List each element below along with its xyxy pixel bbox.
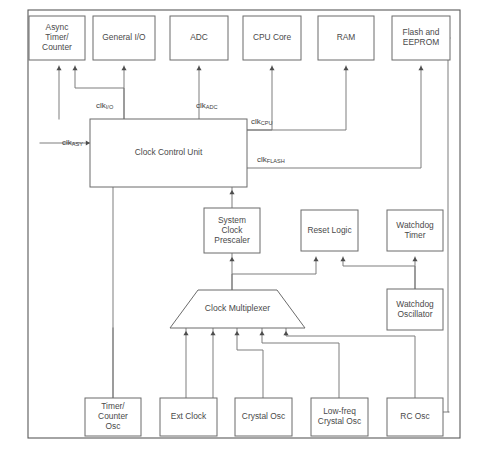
node-rc-osc: RC Osc [387, 398, 443, 436]
low-freq-crystal-osc-label: Low-freq [323, 406, 356, 416]
arrow-mux-5 [283, 331, 288, 335]
wire-mux-in-5 [286, 328, 415, 398]
node-reset-logic: Reset Logic [301, 210, 358, 251]
system-clock-prescaler-label: Clock [222, 225, 244, 235]
rc-osc-label: RC Osc [400, 411, 429, 421]
arrow-cpu-core [269, 66, 274, 70]
node-ext-clock: Ext Clock [160, 398, 217, 436]
node-watchdog-oscillator: WatchdogOscillator [387, 289, 443, 330]
wire-watchdog-osc-to-reset-logic [343, 257, 415, 289]
wire-ccu-to-flash [247, 66, 421, 168]
clock-label-clk-flash: clkFLASH [257, 155, 285, 165]
arrow-mux-1 [183, 331, 188, 335]
watchdog-timer-label: Timer [404, 230, 425, 240]
arrow-prescaler-in [229, 257, 234, 261]
timer-counter-osc-label: Osc [106, 421, 121, 431]
flash-and-eeprom-label: Flash and [403, 27, 440, 37]
node-cpu-core: CPU Core [243, 16, 301, 60]
clock-label-clk-io: clkI/O [96, 101, 114, 111]
node-system-clock-prescaler: SystemClockPrescaler [204, 208, 260, 253]
system-clock-prescaler-label: Prescaler [214, 235, 250, 245]
arrow-watchdog-timer [412, 257, 417, 261]
clock-label-clk-cpu: clkCPU [251, 117, 273, 127]
wire-ccu-to-async-timer-second [75, 66, 124, 119]
wire-mux-to-reset-logic [232, 257, 316, 290]
clock-label-clk-asy: clkASY [62, 138, 83, 148]
node-ram: RAM [318, 16, 374, 60]
arrow-mux-4 [259, 331, 264, 335]
node-crystal-osc: Crystal Osc [235, 398, 292, 436]
wire-mux-in-4 [262, 328, 339, 398]
arrow-reset-left [313, 257, 318, 261]
node-clock-control-unit: Clock Control Unit [90, 119, 247, 187]
node-watchdog-timer: WatchdogTimer [387, 210, 443, 251]
arrow-ram [343, 66, 348, 70]
system-clock-prescaler-label: System [218, 215, 246, 225]
arrow-reset-right [340, 257, 345, 261]
arrow-ccu-asy [86, 140, 90, 145]
node-async-timer-counter: AsyncTimer/Counter [29, 16, 85, 60]
clock-multiplexer-label: Clock Multiplexer [205, 303, 271, 313]
async-timer-counter-label: Timer/ [45, 32, 69, 42]
timer-counter-osc-label: Counter [98, 411, 128, 421]
arrow-mux-3 [234, 331, 239, 335]
node-adc: ADC [170, 16, 228, 60]
watchdog-oscillator-label: Watchdog [396, 299, 434, 309]
clock-label-clk-adc: clkADC [196, 101, 218, 111]
crystal-osc-label: Crystal Osc [242, 411, 285, 421]
arrow-mux-2 [210, 331, 215, 335]
wire-flash-right-to-rc-osc [448, 38, 450, 412]
node-flash-and-eeprom: Flash andEEPROM [392, 16, 450, 60]
node-timer-counter-osc: Timer/CounterOsc [85, 398, 141, 436]
ram-label: RAM [337, 32, 356, 42]
flash-and-eeprom-label: EEPROM [403, 37, 439, 47]
arrow-ccu-prescaler [229, 190, 234, 194]
node-low-freq-crystal-osc: Low-freqCrystal Osc [311, 398, 368, 436]
reset-logic-label: Reset Logic [307, 225, 351, 235]
arrow-async-timer-right [72, 66, 77, 70]
arrow-adc [196, 66, 201, 70]
watchdog-timer-label: Watchdog [396, 220, 434, 230]
watchdog-oscillator-label: Oscillator [398, 309, 433, 319]
wire-mux-in-3 [237, 328, 263, 398]
arrow-general-io [121, 66, 126, 70]
node-general-io: General I/O [93, 16, 155, 60]
async-timer-counter-label: Async [46, 22, 69, 32]
clock-control-unit-label: Clock Control Unit [135, 147, 203, 157]
diagram-canvas: AsyncTimer/CounterGeneral I/OADCCPU Core… [0, 0, 485, 457]
ext-clock-label: Ext Clock [171, 411, 207, 421]
clock-distribution-diagram: AsyncTimer/CounterGeneral I/OADCCPU Core… [0, 0, 485, 457]
low-freq-crystal-osc-label: Crystal Osc [318, 416, 361, 426]
timer-counter-osc-label: Timer/ [101, 401, 125, 411]
async-timer-counter-label: Counter [42, 42, 72, 52]
adc-label: ADC [190, 32, 208, 42]
cpu-core-label: CPU Core [253, 32, 292, 42]
arrow-flash [418, 66, 423, 70]
arrow-async-timer-left [56, 66, 61, 70]
general-io-label: General I/O [102, 32, 146, 42]
node-clock-multiplexer: Clock Multiplexer [170, 290, 305, 328]
node-layer: AsyncTimer/CounterGeneral I/OADCCPU Core… [29, 16, 450, 436]
